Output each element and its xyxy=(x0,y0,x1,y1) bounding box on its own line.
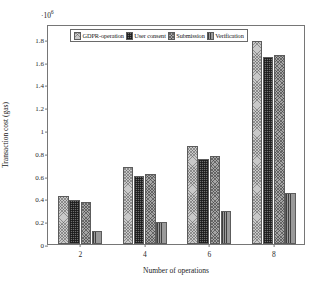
y-axis-tick-mark xyxy=(45,132,48,133)
y-axis-tick-mark xyxy=(45,177,48,178)
bar xyxy=(187,146,198,244)
bar xyxy=(69,200,80,244)
y-axis-tick-mark xyxy=(45,40,48,41)
legend-entry: User consent xyxy=(125,30,167,41)
bar xyxy=(198,159,209,244)
x-axis-title: Number of operations xyxy=(143,266,209,275)
bar xyxy=(210,156,221,244)
legend-label: Verification xyxy=(215,32,244,39)
y-axis-tick-mark xyxy=(45,246,48,247)
x-axis-tick-mark xyxy=(80,244,81,247)
legend-label: GDPR-operation xyxy=(83,32,124,39)
x-axis-tick-mark xyxy=(144,244,145,247)
bar xyxy=(123,167,134,245)
y-axis-exponent-power: 6 xyxy=(51,9,54,15)
legend-swatch-icon xyxy=(126,32,133,40)
legend-swatch-icon xyxy=(207,32,214,40)
bar xyxy=(263,57,274,244)
x-axis-tick-mark xyxy=(209,244,210,247)
y-axis-tick-mark xyxy=(45,86,48,87)
y-axis-tick-mark xyxy=(45,154,48,155)
bar xyxy=(134,176,145,244)
y-axis-tick-mark xyxy=(45,223,48,224)
x-axis-tick-mark xyxy=(273,244,274,247)
legend-entry: Submission xyxy=(167,30,206,41)
chart-figure: ·106 Transaction cost (gas) Number of op… xyxy=(0,0,322,296)
bar xyxy=(156,222,167,244)
plot-inner: 00.20.40.60.811.21.41.61.82468 xyxy=(48,26,304,244)
bar xyxy=(92,231,103,244)
y-axis-exponent-base: ·10 xyxy=(41,11,51,20)
y-axis-exponent-label: ·106 xyxy=(41,9,54,20)
plot-area: 00.20.40.60.811.21.41.61.82468 xyxy=(47,25,305,245)
y-axis-title: Transaction cost (gas) xyxy=(1,102,10,168)
bar xyxy=(274,55,285,244)
y-axis-tick-mark xyxy=(45,200,48,201)
bar xyxy=(252,41,263,244)
legend-entry: Verification xyxy=(206,30,245,41)
legend-label: User consent xyxy=(134,32,166,39)
bar xyxy=(58,196,69,244)
bar xyxy=(285,193,296,244)
legend-swatch-icon xyxy=(168,32,175,40)
legend-swatch-icon xyxy=(74,32,81,40)
bar xyxy=(221,211,232,244)
bar xyxy=(145,174,156,244)
legend-label: Submission xyxy=(176,32,204,39)
y-axis-tick-mark xyxy=(45,109,48,110)
y-axis-tick-mark xyxy=(45,63,48,64)
bar xyxy=(81,202,92,244)
chart-legend: GDPR-operationUser consentSubmissionVeri… xyxy=(70,29,248,42)
legend-entry: GDPR-operation xyxy=(73,30,125,41)
